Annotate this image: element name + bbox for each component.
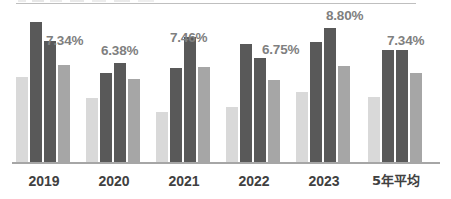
bar-series-2-5年平均[interactable]	[382, 50, 394, 163]
data-label-2019: 7.34%	[46, 33, 83, 48]
bar-series-3-2020[interactable]	[114, 63, 126, 163]
data-label-2023: 8.80%	[326, 8, 363, 23]
bar-series-4-2020[interactable]	[128, 79, 140, 163]
data-label-2020: 6.38%	[101, 43, 138, 58]
bar-group-bars	[296, 36, 350, 163]
bar-series-1-2019[interactable]	[16, 77, 28, 163]
bar-series-3-5年平均[interactable]	[396, 50, 408, 163]
x-axis-tick-label-2021: 2021	[146, 173, 222, 189]
bar-series-1-2020[interactable]	[86, 98, 98, 163]
bar-group-bars	[16, 36, 70, 163]
bar-series-3-2023[interactable]	[324, 28, 336, 163]
bar-series-2-2019[interactable]	[30, 22, 42, 163]
data-label-5年平均: 7.34%	[387, 33, 424, 48]
bar-series-2-2022[interactable]	[240, 44, 252, 163]
bar-series-4-2022[interactable]	[268, 80, 280, 163]
bar-series-4-5年平均[interactable]	[410, 73, 422, 163]
bar-group-bars	[156, 36, 210, 163]
bar-series-1-2023[interactable]	[296, 92, 308, 163]
data-label-2022: 6.75%	[262, 42, 299, 57]
bar-series-2-2020[interactable]	[100, 73, 112, 163]
data-label-2021: 7.46%	[170, 30, 207, 45]
bar-group-bars	[368, 36, 422, 163]
bar-series-1-5年平均[interactable]	[368, 97, 380, 163]
x-axis-tick-label-5年平均: 5年平均	[358, 170, 434, 189]
bar-series-3-2019[interactable]	[44, 41, 56, 163]
bar-series-3-2021[interactable]	[184, 37, 196, 163]
x-axis-tick-label-2022: 2022	[216, 173, 292, 189]
bar-series-4-2023[interactable]	[338, 66, 350, 163]
bar-series-4-2019[interactable]	[58, 65, 70, 163]
x-axis-line	[12, 162, 440, 164]
x-axis-tick-label-2020: 2020	[76, 173, 152, 189]
bar-series-2-2021[interactable]	[170, 68, 182, 163]
bar-series-1-2021[interactable]	[156, 112, 168, 163]
x-axis-tick-label-2019: 2019	[6, 173, 82, 189]
bar-series-2-2023[interactable]	[310, 42, 322, 163]
bar-series-3-2022[interactable]	[254, 58, 266, 163]
bar-series-1-2022[interactable]	[226, 107, 238, 163]
bar-series-4-2021[interactable]	[198, 67, 210, 163]
chart-container: 7.34%6.38%7.46%6.75%8.80%7.34% 201920202…	[0, 0, 451, 199]
x-axis-tick-label-2023: 2023	[286, 173, 362, 189]
